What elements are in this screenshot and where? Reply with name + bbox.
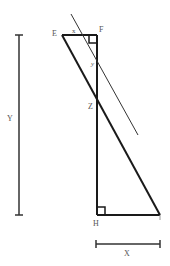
transversal-line <box>71 14 138 135</box>
label-dim-y: Y <box>7 114 13 123</box>
label-e: E <box>52 29 57 38</box>
label-h: H <box>93 219 99 228</box>
label-x-angle: x <box>72 27 76 35</box>
geometry-diagram: E F x y Z H Y X <box>0 0 170 266</box>
right-angle-f <box>89 35 97 43</box>
label-f: F <box>99 25 104 34</box>
label-y-point: y <box>90 60 95 68</box>
right-angle-h <box>97 207 105 215</box>
label-dim-x: X <box>124 249 130 258</box>
diagonal-e-z <box>62 35 160 215</box>
label-z: Z <box>88 102 93 111</box>
